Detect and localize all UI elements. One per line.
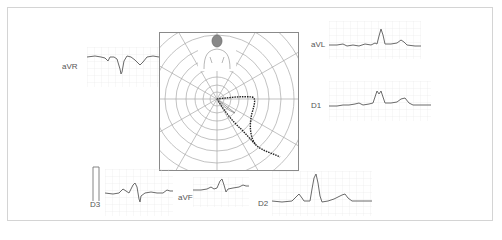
lead-label-d3: D3: [90, 201, 100, 209]
ecg-trace-d2: [272, 171, 372, 216]
lead-label-avf: aVF: [178, 194, 193, 202]
lead-label-d2: D2: [258, 200, 268, 208]
human-torso-icon: [198, 35, 236, 71]
polar-hexaxial-diagram: [159, 32, 299, 171]
d3-calibration-bracket: [91, 166, 101, 202]
ecg-trace-avf: [193, 177, 249, 207]
lead-label-avr: aVR: [62, 63, 78, 71]
lead-label-avl: aVL: [311, 41, 325, 49]
ecg-trace-avr: [87, 47, 159, 87]
p-loop: [217, 99, 235, 113]
ecg-trace-d3: [105, 169, 173, 216]
vector-loop: [217, 97, 280, 157]
ecg-trace-d1: [329, 81, 431, 121]
ecg-trace-avl: [329, 21, 421, 59]
lead-label-d1: D1: [311, 102, 321, 110]
